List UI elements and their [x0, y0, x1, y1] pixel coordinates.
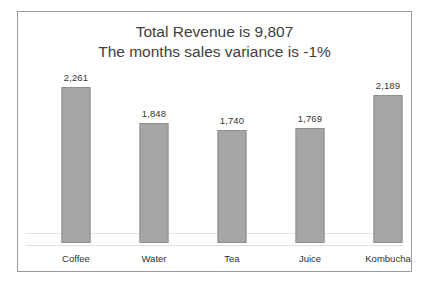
bar-value-coffee: 2,261	[40, 72, 112, 83]
bar-value-tea: 1,740	[196, 115, 268, 126]
bar-water[interactable]	[140, 123, 169, 243]
bar-column-kombucha[interactable]: 2,189 Kombucha	[352, 10, 424, 271]
bar-value-juice: 1,769	[274, 113, 346, 124]
bar-column-juice[interactable]: 1,769 Juice	[274, 10, 346, 271]
category-label-coffee: Coffee	[40, 253, 112, 264]
bar-kombucha[interactable]	[374, 95, 403, 243]
category-label-juice: Juice	[274, 253, 346, 264]
category-label-water: Water	[118, 253, 190, 264]
category-label-kombucha: Kombucha	[352, 253, 424, 264]
bar-column-tea[interactable]: 1,740 Tea	[196, 10, 268, 271]
bar-column-water[interactable]: 1,848 Water	[118, 10, 190, 271]
chart-frame: Total Revenue is 9,807 The months sales …	[17, 11, 412, 272]
plot-area: 2,261 Coffee 1,848 Water 1,740 Tea 1,769…	[18, 12, 411, 271]
bar-column-coffee[interactable]: 2,261 Coffee	[40, 10, 112, 271]
bar-value-water: 1,848	[118, 108, 190, 119]
bar-value-kombucha: 2,189	[352, 80, 424, 91]
bar-coffee[interactable]	[62, 87, 91, 243]
bar-tea[interactable]	[218, 130, 247, 243]
bar-juice[interactable]	[296, 128, 325, 243]
category-label-tea: Tea	[196, 253, 268, 264]
